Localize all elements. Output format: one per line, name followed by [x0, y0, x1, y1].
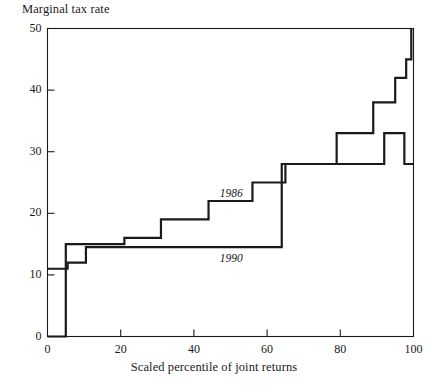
x-tick-label: 100: [394, 342, 428, 357]
figure-container: Marginal tax rate 01020304050 0204060801…: [0, 0, 428, 385]
x-tick-label: 40: [174, 342, 214, 357]
data-series: [48, 29, 414, 337]
y-tick-label: 40: [16, 82, 42, 97]
x-tick-label: 60: [247, 342, 287, 357]
y-tick-label: 20: [16, 205, 42, 220]
x-axis-title: Scaled percentile of joint returns: [0, 360, 428, 375]
x-tick-label: 0: [28, 342, 68, 357]
y-tick-label: 30: [16, 144, 42, 159]
y-tick-label: 10: [16, 267, 42, 282]
series-line-1986: [48, 29, 412, 337]
axis-ticks: [48, 90, 341, 336]
series-annotation-1986: 1986: [220, 187, 243, 199]
series-annotation-1990: 1990: [220, 252, 243, 264]
chart-plot-svg: [0, 0, 428, 385]
x-tick-label: 20: [101, 342, 141, 357]
y-tick-label: 50: [16, 21, 42, 36]
plot-frame: [48, 29, 414, 337]
x-tick-label: 80: [320, 342, 360, 357]
